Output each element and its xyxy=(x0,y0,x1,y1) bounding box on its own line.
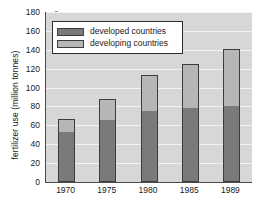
y-axis-tick-labels: 020406080100120140160180 xyxy=(14,12,40,182)
y-tick-label: 20 xyxy=(14,159,40,168)
fertilizer-use-bar-chart: fertilizer use (million tonnes) 02040608… xyxy=(0,0,262,216)
bar-segment-developed xyxy=(59,132,74,181)
bar-1970 xyxy=(58,119,75,182)
bar-1985 xyxy=(182,64,199,182)
x-tick-label: 1989 xyxy=(210,186,250,195)
bar-segment-developing xyxy=(59,120,74,132)
y-tick-label: 40 xyxy=(14,140,40,149)
x-tick-label: 1970 xyxy=(46,186,86,195)
y-tick-label: 0 xyxy=(14,178,40,187)
bar-segment-developing xyxy=(183,65,198,108)
bar-segment-developing xyxy=(100,100,115,120)
bar-segment-developing xyxy=(142,76,157,111)
bar-1980 xyxy=(141,75,158,182)
bar-segment-developed xyxy=(100,120,115,181)
x-tick-label: 1980 xyxy=(128,186,168,195)
bar-1989 xyxy=(223,49,240,182)
y-tick-label: 180 xyxy=(14,8,40,17)
legend-item-developing: developing countries xyxy=(57,38,178,49)
x-tick-label: 1985 xyxy=(169,186,209,195)
y-tick-label: 60 xyxy=(14,121,40,130)
bar-segment-developed xyxy=(142,111,157,181)
legend-label-developed: developed countries xyxy=(90,27,166,36)
y-tick-label: 80 xyxy=(14,102,40,111)
x-axis-tick-labels: 19701975198019851989 xyxy=(45,186,251,202)
bar-1975 xyxy=(99,99,116,182)
y-tick-label: 160 xyxy=(14,27,40,36)
x-tick-label: 1975 xyxy=(87,186,127,195)
legend-label-developing: developing countries xyxy=(90,39,168,48)
y-tick-label: 120 xyxy=(14,64,40,73)
y-tick-label: 140 xyxy=(14,46,40,55)
legend-swatch-developing-icon xyxy=(57,40,84,48)
chart-legend: developed countries developing countries xyxy=(52,21,183,54)
bar-segment-developed xyxy=(224,106,239,181)
legend-item-developed: developed countries xyxy=(57,26,178,37)
y-tick-label: 100 xyxy=(14,83,40,92)
legend-swatch-developed-icon xyxy=(57,28,84,36)
bar-segment-developed xyxy=(183,108,198,181)
bar-segment-developing xyxy=(224,50,239,106)
